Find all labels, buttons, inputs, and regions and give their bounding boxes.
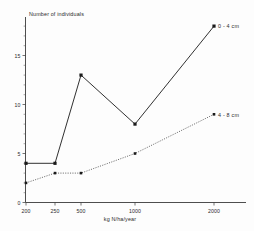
- series-0-4-cm: [24, 25, 215, 165]
- data-point: [79, 74, 82, 77]
- line-chart: 0 5 10 15 Number of individuals 200 250 …: [0, 0, 254, 231]
- series-0-4-cm-line: [26, 26, 214, 163]
- y-tick-label-0: 0: [17, 200, 20, 206]
- data-point: [53, 162, 56, 165]
- x-tick-label-2000: 2000: [208, 208, 220, 214]
- y-tick-label-5: 5: [17, 151, 20, 157]
- data-point: [213, 113, 216, 116]
- y-tick-label-10: 10: [14, 102, 20, 108]
- x-axis-title: kg N/ha/year: [104, 216, 136, 222]
- x-tick-label-1000: 1000: [129, 208, 141, 214]
- legend-label-4-8-cm: 4 - 8 cm: [218, 112, 239, 118]
- series-4-8-cm: [25, 113, 216, 184]
- y-axis-title: Number of individuals: [29, 11, 84, 17]
- x-tick-label-250: 250: [50, 208, 59, 214]
- data-point: [25, 182, 28, 185]
- data-point: [80, 172, 83, 175]
- chart-figure: 0 5 10 15 Number of individuals 200 250 …: [0, 0, 254, 231]
- x-tick-label-500: 500: [76, 208, 85, 214]
- x-tick-label-200: 200: [21, 208, 30, 214]
- data-point: [54, 172, 57, 175]
- y-tick-label-15: 15: [14, 53, 20, 59]
- legend-label-0-4-cm: 0 - 4 cm: [218, 23, 239, 29]
- data-point: [212, 25, 215, 28]
- data-point: [133, 123, 136, 126]
- data-point: [24, 162, 27, 165]
- data-point: [134, 152, 137, 155]
